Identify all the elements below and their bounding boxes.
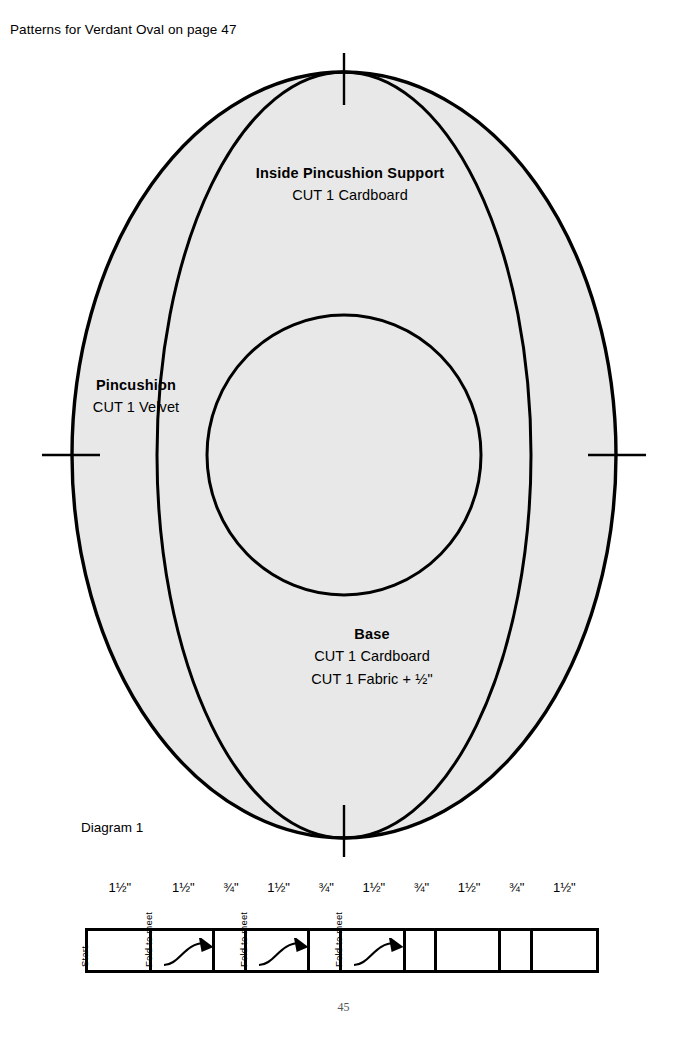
fold-arrow-icon (164, 938, 214, 968)
strip-cell (501, 931, 533, 970)
strip-cell (533, 931, 597, 970)
diagram-caption: Diagram 1 (81, 820, 143, 836)
strip-cell: Start (88, 931, 152, 970)
piece-title: Base (257, 624, 487, 645)
strip-measurement: ¾" (215, 880, 247, 895)
piece-label-pincushion: Pincushion CUT 1 Velvet (60, 375, 212, 419)
strip-measurement: ¾" (501, 880, 533, 895)
strip-measurement: ¾" (310, 880, 342, 895)
folding-strip-figure: 1½"1½"¾"1½"¾"1½"¾"1½"¾"1½" StartFold to … (0, 880, 687, 1000)
strip-cell-label: Fold to meet (334, 912, 344, 967)
piece-title: Inside Pincushion Support (198, 163, 502, 184)
strip-measurement: 1½" (247, 880, 311, 895)
fold-arrow-icon (259, 938, 309, 968)
page-number: 45 (0, 1000, 687, 1015)
fold-arrow-icon (354, 938, 404, 968)
strip-cell (437, 931, 501, 970)
page-header-caption: Patterns for Verdant Oval on page 47 (10, 22, 237, 38)
strip-cell (406, 931, 438, 970)
strip-cell: Fold to meet (342, 931, 406, 970)
folding-strip: StartFold to meetFold to meetFold to mee… (85, 928, 599, 973)
strip-measurement: 1½" (437, 880, 501, 895)
strip-cell: Fold to meet (152, 931, 216, 970)
strip-measurement: 1½" (342, 880, 406, 895)
piece-cut-line: CUT 1 Velvet (60, 396, 212, 419)
piece-cut-line: CUT 1 Cardboard (257, 645, 487, 668)
strip-cell-label: Fold to meet (239, 912, 249, 967)
piece-cut-line: CUT 1 Fabric + ½" (257, 668, 487, 691)
strip-measurement: ¾" (406, 880, 438, 895)
strip-cell: Fold to meet (247, 931, 311, 970)
pattern-page: Patterns for Verdant Oval on page 47 Ins… (0, 0, 687, 1054)
strip-measurement: 1½" (533, 880, 597, 895)
piece-title: Pincushion (60, 375, 212, 396)
strip-measurement: 1½" (88, 880, 152, 895)
piece-label-base: Base CUT 1 Cardboard CUT 1 Fabric + ½" (257, 624, 487, 691)
strip-cell-label: Fold to meet (144, 912, 154, 967)
piece-cut-line: CUT 1 Cardboard (198, 184, 502, 207)
piece-label-inside-pincushion-support: Inside Pincushion Support CUT 1 Cardboar… (198, 163, 502, 207)
strip-cell-label: Start (80, 946, 90, 967)
strip-measurement: 1½" (152, 880, 216, 895)
